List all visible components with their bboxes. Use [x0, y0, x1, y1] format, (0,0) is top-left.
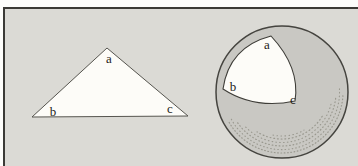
spherical-triangle-label-c: c [290, 92, 296, 107]
spherical-triangle-label-b: b [230, 79, 237, 94]
plane-triangle-label-c: c [167, 101, 173, 116]
figure-canvas: a b c a b c [0, 0, 358, 166]
spherical-triangle-label-a: a [264, 37, 270, 52]
plane-triangle-label-b: b [50, 104, 57, 119]
geometry-figure-panel: a b c a b c [0, 0, 358, 166]
plane-triangle-label-a: a [106, 51, 112, 66]
